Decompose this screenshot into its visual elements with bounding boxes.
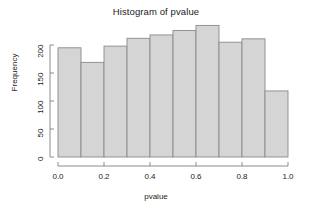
x-tick-label: 0.0	[43, 172, 73, 181]
histogram-bar	[150, 35, 173, 157]
y-tick-label: 0	[36, 157, 45, 183]
x-tick-label: 0.4	[135, 172, 165, 181]
histogram-bar	[196, 25, 219, 157]
y-tick-label: 50	[36, 129, 45, 155]
y-tick-label: 100	[36, 101, 45, 127]
histogram-bar	[81, 62, 104, 157]
x-tick-label: 1.0	[273, 172, 303, 181]
x-tick-label: 0.2	[89, 172, 119, 181]
histogram-bar	[265, 91, 288, 157]
histogram-bar	[219, 42, 242, 157]
x-tick-label: 0.8	[227, 172, 257, 181]
histogram-bar	[127, 38, 150, 157]
histogram-bar	[242, 39, 265, 157]
histogram-bar	[58, 48, 81, 157]
y-tick-label: 150	[36, 73, 45, 99]
histogram-bar	[104, 46, 127, 157]
histogram-figure: Histogram of pvalue Frequency pvalue 0.0…	[0, 0, 312, 210]
bars-group	[58, 25, 288, 157]
x-axis-label: pvalue	[0, 192, 312, 201]
y-axis-label: Frequency	[10, 33, 19, 113]
histogram-bar	[173, 30, 196, 157]
y-tick-label: 200	[36, 45, 45, 71]
x-tick-label: 0.6	[181, 172, 211, 181]
